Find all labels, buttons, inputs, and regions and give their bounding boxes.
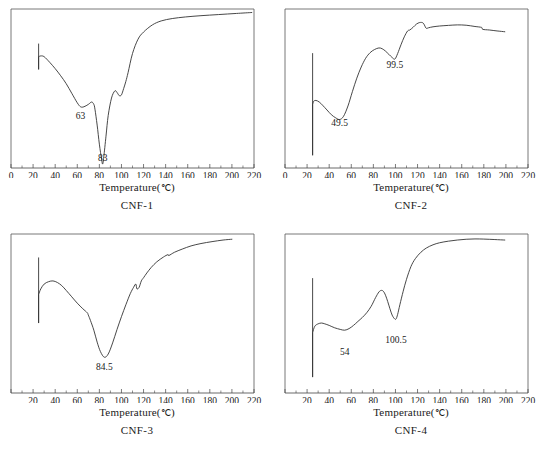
- x-axis-tick-label: 100: [388, 171, 403, 179]
- x-axis-label-text: Temperature(: [373, 181, 434, 193]
- plot-area-cnf-3: 2040608010012014016018020022084.5: [0, 225, 274, 403]
- x-axis-tick-label: 160: [181, 396, 196, 404]
- x-axis-label-cnf-2: Temperature(℃): [274, 181, 548, 193]
- x-axis-tick-label: 0: [283, 171, 288, 179]
- x-axis-tick-label: 40: [324, 171, 334, 179]
- x-axis-tick-label: 80: [95, 396, 105, 404]
- panel-cnf-1: 0204060801001201401601802002206383 Tempe…: [0, 0, 274, 225]
- peak-annotation-label: 99.5: [387, 60, 404, 70]
- figure-dsc-thermograms: 0204060801001201401601802002206383 Tempe…: [0, 0, 548, 450]
- x-axis-tick-label: 40: [50, 171, 60, 179]
- plot-area-cnf-4: 2040608010012014016018020022054100.5: [274, 225, 548, 403]
- x-axis-tick-label: 200: [225, 171, 240, 179]
- dsc-curve: [39, 239, 232, 357]
- x-axis-tick-label: 160: [181, 171, 196, 179]
- x-axis-tick-label: 80: [95, 171, 105, 179]
- x-axis-tick-label: 200: [499, 171, 513, 179]
- x-axis-tick-label: 120: [410, 396, 425, 404]
- x-axis-tick-label: 180: [477, 396, 492, 404]
- x-axis-tick-label: 220: [247, 396, 262, 404]
- x-axis-tick-label: 60: [347, 396, 357, 404]
- x-axis-label-close: ): [171, 181, 175, 193]
- x-axis-tick-label: 220: [247, 171, 262, 179]
- x-axis-tick-label: 100: [114, 396, 129, 404]
- x-axis-tick-label: 20: [28, 396, 38, 404]
- plot-area-cnf-2: 02040608010012014016018020022049.599.5: [274, 0, 548, 178]
- x-axis-unit: ℃: [161, 408, 171, 418]
- x-axis-tick-label: 140: [433, 396, 448, 404]
- panel-caption-cnf-1: CNF-1: [0, 199, 274, 211]
- peak-annotation-label: 100.5: [385, 335, 407, 345]
- plot-frame: [285, 234, 528, 393]
- panel-cnf-2: 02040608010012014016018020022049.599.5 T…: [274, 0, 548, 225]
- x-axis-tick-label: 100: [388, 396, 403, 404]
- x-axis-unit: ℃: [161, 183, 171, 193]
- x-axis-label-text: Temperature(: [373, 406, 434, 418]
- x-axis-label-text: Temperature(: [99, 406, 160, 418]
- dsc-curve: [39, 13, 252, 165]
- x-axis-tick-label: 120: [136, 171, 151, 179]
- x-axis-tick-label: 20: [302, 396, 312, 404]
- x-axis-tick-label: 180: [203, 396, 218, 404]
- x-axis-tick-label: 140: [159, 396, 174, 404]
- x-axis-label-cnf-1: Temperature(℃): [0, 181, 274, 193]
- panel-cnf-3: 2040608010012014016018020022084.5 Temper…: [0, 225, 274, 450]
- x-axis-tick-label: 20: [28, 171, 38, 179]
- x-axis-label-close: ): [445, 181, 449, 193]
- x-axis-label-cnf-4: Temperature(℃): [274, 406, 548, 418]
- x-axis-tick-label: 140: [159, 171, 174, 179]
- panel-caption-cnf-4: CNF-4: [274, 424, 548, 436]
- x-axis-label-cnf-3: Temperature(℃): [0, 406, 274, 418]
- x-axis-tick-label: 160: [455, 171, 470, 179]
- dsc-curve: [313, 22, 505, 155]
- x-axis-tick-label: 40: [50, 396, 60, 404]
- plot-frame: [11, 9, 254, 168]
- x-axis-tick-label: 120: [136, 396, 151, 404]
- x-axis-unit: ℃: [435, 408, 445, 418]
- x-axis-tick-label: 180: [477, 171, 492, 179]
- x-axis-tick-label: 200: [499, 396, 513, 404]
- panel-caption-cnf-3: CNF-3: [0, 424, 274, 436]
- x-axis-unit: ℃: [435, 183, 445, 193]
- x-axis-tick-label: 160: [455, 396, 470, 404]
- panel-caption-cnf-2: CNF-2: [274, 199, 548, 211]
- x-axis-tick-label: 180: [203, 171, 218, 179]
- peak-annotation-label: 63: [76, 111, 86, 121]
- x-axis-tick-label: 20: [302, 171, 312, 179]
- plot-area-cnf-1: 0204060801001201401601802002206383: [0, 0, 274, 178]
- x-axis-tick-label: 60: [73, 171, 83, 179]
- peak-annotation-label: 49.5: [331, 118, 348, 128]
- x-axis-tick-label: 100: [114, 171, 129, 179]
- panel-cnf-4: 2040608010012014016018020022054100.5 Tem…: [274, 225, 548, 450]
- x-axis-tick-label: 200: [225, 396, 240, 404]
- x-axis-tick-label: 80: [369, 396, 379, 404]
- x-axis-tick-label: 60: [347, 171, 357, 179]
- peak-annotation-label: 54: [340, 347, 350, 357]
- x-axis-tick-label: 120: [410, 171, 425, 179]
- x-axis-label-text: Temperature(: [99, 181, 160, 193]
- x-axis-tick-label: 0: [9, 171, 14, 179]
- x-axis-tick-label: 220: [521, 171, 536, 179]
- x-axis-tick-label: 40: [324, 396, 334, 404]
- x-axis-tick-label: 60: [73, 396, 83, 404]
- x-axis-tick-label: 220: [521, 396, 536, 404]
- plot-frame: [11, 234, 254, 393]
- peak-annotation-label: 83: [98, 153, 108, 163]
- x-axis-label-close: ): [171, 406, 175, 418]
- peak-annotation-label: 84.5: [96, 362, 113, 372]
- x-axis-label-close: ): [445, 406, 449, 418]
- x-axis-tick-label: 140: [433, 171, 448, 179]
- x-axis-tick-label: 80: [369, 171, 379, 179]
